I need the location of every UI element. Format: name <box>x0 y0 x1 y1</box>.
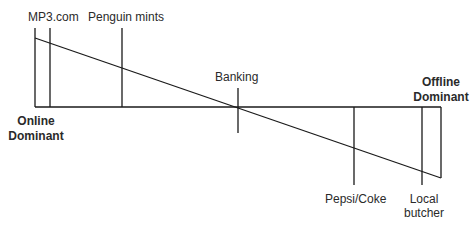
penguin-mints-label: Penguin mints <box>88 10 164 24</box>
pepsi-coke-label: Pepsi/Coke <box>325 192 386 206</box>
mp3-label: MP3.com <box>28 10 79 24</box>
offline-dominant-line1: Offline <box>410 75 472 90</box>
offline-dominant-line2: Dominant <box>410 90 472 105</box>
offline-dominant-label: Offline Dominant <box>410 75 472 105</box>
local-butcher-label-line2: butcher <box>404 206 444 220</box>
local-butcher-label: Local butcher <box>404 192 444 220</box>
online-dominant-line2: Dominant <box>5 129 67 144</box>
local-butcher-label-line1: Local <box>404 192 444 206</box>
online-dominant-label: Online Dominant <box>5 114 67 144</box>
online-dominant-line1: Online <box>5 114 67 129</box>
banking-label: Banking <box>215 70 258 84</box>
